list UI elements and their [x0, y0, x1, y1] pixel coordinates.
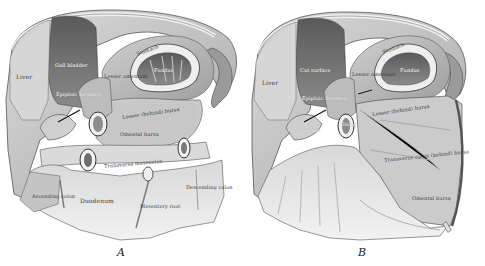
label-b-fundus: Fundus: [400, 68, 420, 73]
label-b-lesser-omentum: Lesser omentum: [352, 72, 396, 77]
label-b-liver: Liver: [262, 80, 278, 85]
label-b-epiploic-foramen: Epiploic foramen: [302, 96, 347, 101]
label-b-cut-surface: Cut surface: [300, 68, 331, 73]
label-a-duodenum: Duodenum: [80, 198, 114, 203]
anatomical-figure: Diaphragm Liver Gall bladder Epiploic fo…: [0, 0, 485, 266]
label-b-gall-bladder: Gall bladder: [288, 128, 321, 133]
caption-panel-b: B: [358, 246, 366, 259]
label-a-descending-colon: Descending colon: [186, 185, 233, 190]
label-a-lesser-omentum: Lesser omentum: [104, 74, 148, 79]
label-b-duodenum: Duod.: [342, 122, 358, 127]
illustration-artwork: [0, 0, 485, 266]
label-a-ascending-colon: Ascending colon: [32, 194, 75, 199]
label-b-omental-bursa: Omental bursa: [412, 196, 451, 201]
label-a-mesentery-root: Mesentery root: [140, 204, 180, 209]
label-a-gall-bladder: Gall bladder: [55, 63, 88, 68]
label-a-epiploic-foramen: Epiploic foramen: [56, 92, 101, 97]
label-a-omental-bursa: Omental bursa: [120, 132, 159, 137]
panel-b-artwork: [252, 12, 466, 240]
label-a-fundus: Fundus: [154, 68, 174, 73]
label-a-liver: Liver: [16, 74, 32, 79]
panel-a-artwork: [6, 10, 237, 240]
caption-panel-a: A: [117, 246, 125, 259]
